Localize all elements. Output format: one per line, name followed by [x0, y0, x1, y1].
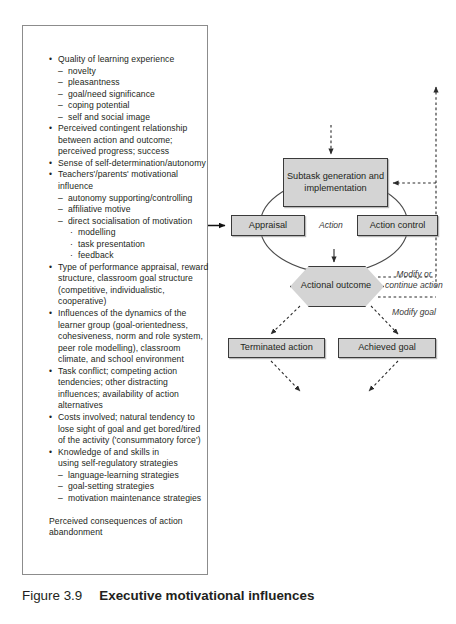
factors-list-item: modelling: [49, 227, 229, 239]
edge-outcome-to-terminated: [271, 306, 300, 334]
factors-list-item: Teachers'/parents' motivational: [49, 169, 229, 181]
edge-label-action: Action: [319, 220, 343, 231]
factors-list-item: peer role modelling), classroom: [49, 343, 229, 355]
edge-label-line1: Modify or: [385, 269, 443, 280]
factors-list-item: influences; availability of action: [49, 389, 229, 401]
figure-title: Executive motivational influences: [99, 588, 314, 603]
factors-list-item: Costs involved; natural tendency to: [49, 412, 229, 424]
node-terminated-action[interactable]: Terminated action: [228, 338, 325, 358]
factors-list-item: Task conflict; competing action: [49, 366, 229, 378]
factors-list: Quality of learning experiencenoveltyple…: [49, 54, 229, 539]
factors-list-item: cooperative): [49, 296, 229, 308]
factors-list-item: direct socialisation of motivation: [49, 216, 229, 228]
factors-list-spacer: [49, 504, 229, 516]
factors-list-item: affiliative motive: [49, 204, 229, 216]
factors-list-item: task presentation: [49, 239, 229, 251]
node-actional-outcome[interactable]: Actional outcome: [290, 266, 382, 305]
edge-label-line2: continue action: [385, 280, 443, 291]
factors-list-item: goal/need significance: [49, 89, 229, 101]
factors-list-item: Influences of the dynamics of the: [49, 308, 229, 320]
node-achieved-goal[interactable]: Achieved goal: [338, 338, 436, 358]
factors-list-item: perceived progress; success: [49, 146, 229, 158]
figure-number: Figure 3.9: [22, 588, 82, 603]
factors-list-item: learner group (goal-orientedness,: [49, 320, 229, 332]
factors-list-item: lose sight of goal and get bored/tired: [49, 424, 229, 436]
factors-list-item: cohesiveness, norm and role system,: [49, 331, 229, 343]
factors-list-item: alternatives: [49, 400, 229, 412]
factors-list-item: Sense of self-determination/autonomy: [49, 158, 229, 170]
factors-list-item: Type of performance appraisal, reward: [49, 262, 229, 274]
edge-terminated-onward: [271, 361, 300, 391]
figure-container: Quality of learning experiencenoveltyple…: [0, 0, 456, 624]
factors-list-item: using self-regulatory strategies: [49, 458, 229, 470]
factors-list-item: self and social image: [49, 112, 229, 124]
factors-list-item: pleasantness: [49, 77, 229, 89]
edge-label-modify-or-continue-action: Modify or continue action: [385, 269, 443, 290]
factors-list-item: language-learning strategies: [49, 470, 229, 482]
factors-list-item: climate, and school environment: [49, 354, 229, 366]
factors-list-item: structure, classroom goal structure: [49, 273, 229, 285]
factors-list-item: coping potential: [49, 100, 229, 112]
node-subtask-generation[interactable]: Subtask generation and implementation: [283, 158, 388, 207]
node-action-control[interactable]: Action control: [357, 215, 438, 236]
factors-list-item: abandonment: [49, 527, 229, 539]
edge-achieved-onward: [369, 361, 398, 391]
factors-list-item: Perceived contingent relationship: [49, 123, 229, 135]
factors-list-item: novelty: [49, 66, 229, 78]
factors-list-item: autonomy supporting/controlling: [49, 193, 229, 205]
flowchart: Subtask generation and implementation Ap…: [208, 25, 456, 435]
node-actional-outcome-label: Actional outcome: [301, 280, 371, 291]
factors-list-item: (competitive, individualistic,: [49, 285, 229, 297]
figure-caption: Figure 3.9Executive motivational influen…: [22, 588, 442, 603]
node-appraisal[interactable]: Appraisal: [231, 215, 305, 236]
factors-panel: Quality of learning experiencenoveltyple…: [22, 25, 208, 575]
factors-list-item: of the activity ('consummatory force'): [49, 435, 229, 447]
factors-list-item: goal-setting strategies: [49, 481, 229, 493]
factors-list-item: feedback: [49, 250, 229, 262]
factors-list-item: Knowledge of and skills in: [49, 447, 229, 459]
factors-list-item: Perceived consequences of action: [49, 516, 229, 528]
factors-list-item: influence: [49, 181, 229, 193]
factors-list-item: tendencies; other distracting: [49, 377, 229, 389]
factors-list-item: between action and outcome;: [49, 135, 229, 147]
factors-list-item: motivation maintenance strategies: [49, 493, 229, 505]
factors-list-item: Quality of learning experience: [49, 54, 229, 66]
edge-label-modify-goal: Modify goal: [392, 307, 436, 318]
